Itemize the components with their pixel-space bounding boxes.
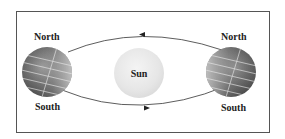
left-earth-globe [22,47,72,97]
right-south-label: South [221,102,246,113]
left-south-label: South [35,101,60,112]
right-north-label: North [221,31,247,42]
sun-label: Sun [114,48,164,98]
arrow-right-icon [144,106,150,111]
sun: Sun [114,48,164,98]
right-earth-globe [206,47,256,97]
left-north-label: North [34,31,60,42]
